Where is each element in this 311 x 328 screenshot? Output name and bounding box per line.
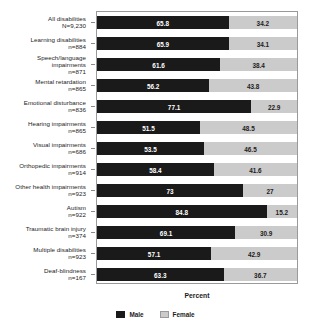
category-sample-size: n=374 bbox=[0, 232, 86, 239]
plot-area: 65.834.265.934.161.638.456.243.877.122.9… bbox=[96, 11, 298, 284]
axis-tick bbox=[91, 148, 95, 149]
bar-segment-female: 42.9 bbox=[211, 247, 297, 260]
category-name: Learning disabilities bbox=[0, 36, 86, 43]
category-name: Hearing impairments bbox=[0, 120, 86, 127]
bar-row: 7327 bbox=[97, 184, 297, 197]
axis-tick bbox=[91, 127, 95, 128]
bar-value-male: 51.5 bbox=[97, 124, 200, 131]
bar-value-female: 22.9 bbox=[251, 103, 297, 110]
axis-tick bbox=[91, 232, 95, 233]
x-axis-title: Percent bbox=[96, 292, 298, 299]
bar-value-male: 63.3 bbox=[97, 271, 224, 278]
bar-value-female: 48.5 bbox=[200, 124, 297, 131]
bar-segment-male: 53.5 bbox=[97, 142, 204, 155]
bar-value-male: 53.5 bbox=[97, 145, 204, 152]
bar-value-male: 61.6 bbox=[97, 61, 220, 68]
axis-tick bbox=[91, 253, 95, 254]
category-name: Autism bbox=[0, 204, 86, 211]
bar-row: 57.142.9 bbox=[97, 247, 297, 260]
bar-segment-female: 46.5 bbox=[204, 142, 297, 155]
axis-tick bbox=[91, 64, 95, 65]
category-name: Other health impairments bbox=[0, 183, 86, 190]
bar-value-female: 46.5 bbox=[204, 145, 297, 152]
bar-segment-male: 57.1 bbox=[97, 247, 211, 260]
stacked-bar-chart: All disabilitiesN=9,230Learning disabili… bbox=[0, 0, 311, 328]
category-sample-size: n=167 bbox=[0, 274, 86, 281]
category-name: Mental retardation bbox=[0, 78, 86, 85]
bar-value-male: 56.2 bbox=[97, 82, 209, 89]
bar-value-female: 34.1 bbox=[229, 40, 297, 47]
category-label: Orthopedic impairmentsn=914 bbox=[0, 162, 86, 176]
category-sample-size: n=923 bbox=[0, 190, 86, 197]
bar-row: 51.548.5 bbox=[97, 121, 297, 134]
bar-row: 53.546.5 bbox=[97, 142, 297, 155]
category-label: All disabilitiesN=9,230 bbox=[0, 15, 86, 29]
category-name: Multiple disabilities bbox=[0, 246, 86, 253]
category-sample-size: n=871 bbox=[0, 67, 86, 74]
bar-segment-male: 61.6 bbox=[97, 58, 220, 71]
category-sample-size: n=865 bbox=[0, 127, 86, 134]
category-label: Visual impairmentsn=686 bbox=[0, 141, 86, 155]
bar-segment-male: 73 bbox=[97, 184, 243, 197]
category-label: Deaf-blindnessn=167 bbox=[0, 267, 86, 281]
bar-segment-female: 43.8 bbox=[209, 79, 297, 92]
axis-tick bbox=[91, 43, 95, 44]
category-label: Autismn=922 bbox=[0, 204, 86, 218]
category-label: Mental retardationn=865 bbox=[0, 78, 86, 92]
bar-segment-male: 56.2 bbox=[97, 79, 209, 92]
bar-value-male: 77.1 bbox=[97, 103, 251, 110]
bar-row: 77.122.9 bbox=[97, 100, 297, 113]
axis-tick bbox=[91, 274, 95, 275]
bar-row: 56.243.8 bbox=[97, 79, 297, 92]
bar-segment-female: 41.6 bbox=[214, 163, 297, 176]
category-sample-size: n=884 bbox=[0, 43, 86, 50]
bar-value-female: 34.2 bbox=[229, 19, 297, 26]
bar-segment-female: 34.1 bbox=[229, 37, 297, 50]
category-name: All disabilities bbox=[0, 15, 86, 22]
bar-value-male: 73 bbox=[97, 187, 243, 194]
category-name: Emotional disturbance bbox=[0, 99, 86, 106]
bar-segment-male: 77.1 bbox=[97, 100, 251, 113]
bar-row: 58.441.6 bbox=[97, 163, 297, 176]
category-sample-size: n=914 bbox=[0, 169, 86, 176]
bar-row: 65.934.1 bbox=[97, 37, 297, 50]
category-sample-size: n=836 bbox=[0, 106, 86, 113]
bar-segment-female: 30.9 bbox=[235, 226, 297, 239]
bar-segment-female: 27 bbox=[243, 184, 297, 197]
bar-segment-male: 65.8 bbox=[97, 16, 229, 29]
bar-value-male: 58.4 bbox=[97, 166, 214, 173]
legend-label-female: Female bbox=[173, 311, 195, 318]
category-label: Hearing impairmentsn=865 bbox=[0, 120, 86, 134]
bar-row: 69.130.9 bbox=[97, 226, 297, 239]
bar-segment-male: 84.8 bbox=[97, 205, 267, 218]
category-label-column: All disabilitiesN=9,230Learning disabili… bbox=[0, 11, 86, 284]
bar-segment-female: 22.9 bbox=[251, 100, 297, 113]
bar-value-male: 84.8 bbox=[97, 208, 267, 215]
bar-segment-female: 48.5 bbox=[200, 121, 297, 134]
axis-tick bbox=[91, 85, 95, 86]
bar-value-female: 27 bbox=[243, 187, 297, 194]
legend-item-female: Female bbox=[160, 311, 195, 318]
bar-value-male: 69.1 bbox=[97, 229, 235, 236]
bar-value-female: 30.9 bbox=[235, 229, 297, 236]
bar-value-female: 43.8 bbox=[209, 82, 297, 89]
category-sample-size: n=686 bbox=[0, 148, 86, 155]
bar-value-male: 65.8 bbox=[97, 19, 229, 26]
bar-value-female: 36.7 bbox=[224, 271, 297, 278]
bar-row: 84.815.2 bbox=[97, 205, 297, 218]
bar-value-female: 42.9 bbox=[211, 250, 297, 257]
category-name: impairments bbox=[0, 60, 86, 67]
bar-segment-female: 36.7 bbox=[224, 268, 297, 281]
axis-tick bbox=[91, 211, 95, 212]
legend-item-male: Male bbox=[116, 311, 143, 318]
category-label: Traumatic brain injuryn=374 bbox=[0, 225, 86, 239]
bar-value-male: 65.9 bbox=[97, 40, 229, 47]
axis-tick bbox=[91, 22, 95, 23]
bar-segment-male: 58.4 bbox=[97, 163, 214, 176]
category-label: Speech/languageimpairmentsn=871 bbox=[0, 53, 86, 74]
bar-value-male: 57.1 bbox=[97, 250, 211, 257]
bar-segment-female: 38.4 bbox=[220, 58, 297, 71]
category-sample-size: n=922 bbox=[0, 211, 86, 218]
category-name: Visual impairments bbox=[0, 141, 86, 148]
category-sample-size: N=9,230 bbox=[0, 22, 86, 29]
